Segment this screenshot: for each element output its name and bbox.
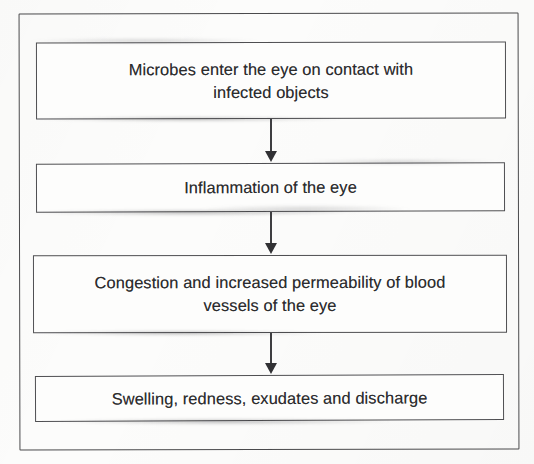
flow-node-3-label: Congestion and increased permeability of… [46,271,494,317]
connector-arrow-3 [264,333,278,375]
flow-node-3: Congestion and increased permeability of… [33,255,507,334]
arrow-head-icon [265,243,277,254]
arrow-shaft [270,119,272,153]
arrow-head-icon [265,363,277,374]
arrow-head-icon [265,151,277,162]
connector-arrow-1 [264,119,278,163]
flow-node-1-label: Microbes enter the eye on contact with i… [49,57,493,103]
flow-node-2: Inflammation of the eye [36,162,505,212]
flow-node-2-label: Inflammation of the eye [49,176,492,200]
flow-node-1: Microbes enter the eye on contact with i… [36,42,506,120]
connector-arrow-2 [264,212,278,255]
flow-node-4: Swelling, redness, exudates and discharg… [35,374,504,422]
flowchart-canvas: Microbes enter the eye on contact with i… [0,0,534,464]
arrow-shaft [270,333,272,365]
arrow-shaft [270,212,272,245]
flow-node-4-label: Swelling, redness, exudates and discharg… [48,386,491,410]
